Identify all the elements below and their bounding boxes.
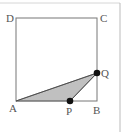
- label-d: D: [6, 12, 14, 24]
- point-q-dot[interactable]: [94, 70, 101, 77]
- label-a: A: [9, 102, 17, 114]
- point-p-dot[interactable]: [67, 98, 74, 105]
- label-q: Q: [101, 67, 109, 79]
- geometry-diagram: D C A B P Q: [0, 0, 124, 132]
- label-p: P: [66, 105, 72, 117]
- label-c: C: [100, 12, 107, 24]
- label-b: B: [93, 104, 100, 116]
